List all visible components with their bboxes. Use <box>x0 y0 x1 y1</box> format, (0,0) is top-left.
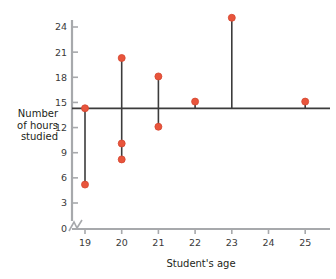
y-tick-label-21: 21 <box>55 47 67 58</box>
y-axis-title-line-1: Number <box>2 108 58 120</box>
y-tick-label-15: 15 <box>55 97 67 108</box>
data-point <box>228 14 235 21</box>
data-point <box>118 156 125 163</box>
y-axis-title: Number of hours studied <box>2 108 58 143</box>
y-tick-label-0: 0 <box>61 223 67 234</box>
y-tick-label-24: 24 <box>55 21 67 32</box>
y-axis-title-line-3: studied <box>2 131 58 143</box>
data-points <box>82 14 309 188</box>
x-tick-label-20: 20 <box>116 237 128 248</box>
y-axis-title-line-2: of hours <box>2 120 58 132</box>
data-point <box>155 73 162 80</box>
y-tick-label-3: 3 <box>61 197 67 208</box>
x-tick-label-23: 23 <box>226 237 238 248</box>
data-point <box>302 98 309 105</box>
data-point <box>192 98 199 105</box>
y-tick-label-6: 6 <box>61 172 67 183</box>
x-tick-label-22: 22 <box>189 237 201 248</box>
data-point <box>82 181 89 188</box>
x-tick-label-24: 24 <box>262 237 274 248</box>
x-tick-label-19: 19 <box>79 237 91 248</box>
data-point <box>118 140 125 147</box>
x-axis-title: Student's age <box>166 258 235 269</box>
chart-container: 03691215182124 19202122232425 Student's … <box>0 0 336 279</box>
x-axis-tick-labels: 19202122232425 <box>79 237 311 248</box>
x-tick-label-21: 21 <box>152 237 164 248</box>
y-tick-label-18: 18 <box>55 72 67 83</box>
data-point <box>155 123 162 130</box>
data-point <box>82 105 89 112</box>
x-tick-label-25: 25 <box>299 237 311 248</box>
y-tick-label-9: 9 <box>61 147 67 158</box>
data-point <box>118 55 125 62</box>
